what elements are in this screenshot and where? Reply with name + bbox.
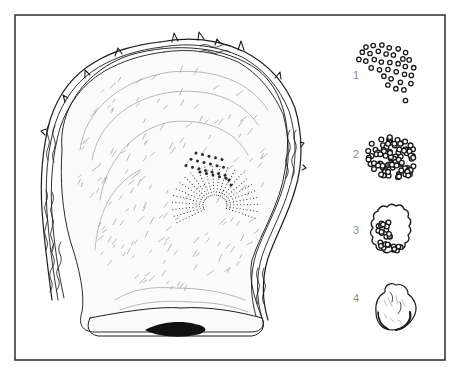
scar-dot xyxy=(196,209,197,210)
scar-dot xyxy=(253,198,254,199)
scar-dot xyxy=(207,189,208,190)
scar-dot xyxy=(237,204,238,205)
nucleus xyxy=(366,157,371,162)
scar-dot xyxy=(219,169,220,170)
scar-dot xyxy=(240,204,241,205)
scar-dot xyxy=(236,201,237,202)
scar-dot xyxy=(248,186,249,187)
nucleus xyxy=(381,222,386,227)
scar-dot xyxy=(190,211,191,212)
nucleus xyxy=(386,67,390,71)
scar-dot xyxy=(192,207,193,208)
scar-dot xyxy=(241,174,242,175)
scar-dot xyxy=(199,195,200,196)
nucleus xyxy=(378,152,383,157)
scar-dot xyxy=(175,208,176,209)
nucleus xyxy=(398,80,402,84)
scar-dot xyxy=(230,207,231,208)
nucleus xyxy=(406,173,411,178)
nucleus xyxy=(398,141,403,146)
scar-dot xyxy=(230,204,231,205)
nucleus xyxy=(394,87,398,91)
scar-dot xyxy=(256,211,257,212)
scar-dot xyxy=(220,189,221,190)
scar-dot xyxy=(204,200,205,201)
scar-dot xyxy=(221,186,222,187)
scar-dot xyxy=(222,197,223,198)
nucleus xyxy=(402,88,406,92)
scar-dot xyxy=(203,206,204,207)
scar-dot xyxy=(214,194,215,195)
scar-dot xyxy=(179,202,180,203)
nucleus xyxy=(369,66,373,70)
scar-dot xyxy=(218,195,219,196)
scar-dot xyxy=(235,211,236,212)
scar-nucleus xyxy=(205,172,208,175)
scar-dot xyxy=(223,180,224,181)
scar-nucleus xyxy=(218,175,221,178)
nucleus xyxy=(391,53,395,57)
scar-dot xyxy=(189,181,190,182)
scar-dot xyxy=(246,178,247,179)
nucleus xyxy=(403,64,407,68)
scar-dot xyxy=(204,195,205,196)
scar-dot xyxy=(203,181,204,182)
scar-dot xyxy=(229,200,230,201)
stage-2-nuclei xyxy=(366,135,416,180)
scar-dot xyxy=(212,195,213,196)
scar-dot xyxy=(172,209,173,210)
scar-dot xyxy=(188,188,189,189)
scar-dot xyxy=(217,182,218,183)
nucleus xyxy=(372,167,377,172)
scar-dot xyxy=(226,170,227,171)
nucleus xyxy=(401,57,405,61)
nucleus xyxy=(382,74,386,78)
stage-1: 1 xyxy=(353,43,416,103)
scar-dot xyxy=(174,216,175,217)
scar-dot xyxy=(226,203,227,204)
scar-dot xyxy=(198,212,199,213)
nucleus xyxy=(387,135,392,140)
scar-dot xyxy=(233,207,234,208)
nucleus xyxy=(394,70,398,74)
scar-dot xyxy=(225,187,226,188)
scar-dot xyxy=(185,192,186,193)
scar-nucleus xyxy=(209,163,212,166)
scar-dot xyxy=(250,198,251,199)
nucleus xyxy=(386,141,391,146)
nucleus xyxy=(399,168,404,173)
scar-dot xyxy=(186,218,187,219)
scar-dot xyxy=(243,204,244,205)
stage-3-mass xyxy=(371,204,411,253)
nucleus xyxy=(388,151,393,156)
scar-dot xyxy=(196,203,197,204)
scar-dot xyxy=(196,180,197,181)
scar-dot xyxy=(216,195,217,196)
scar-dot xyxy=(246,209,247,210)
stage-1-label: 1 xyxy=(353,69,359,81)
scar-dot xyxy=(199,191,200,192)
scar-dot xyxy=(222,183,223,184)
scar-dot xyxy=(232,173,233,174)
scar-dot xyxy=(196,200,197,201)
scar-dot xyxy=(182,202,183,203)
scar-dot xyxy=(201,193,202,194)
scar-dot xyxy=(244,181,245,182)
scar-dot xyxy=(187,179,188,180)
scar-dot xyxy=(190,199,191,200)
nucleus xyxy=(403,139,408,144)
nucleus xyxy=(396,47,400,51)
nucleus xyxy=(377,68,381,72)
scar-dot xyxy=(190,172,191,173)
stage-4: 4 xyxy=(353,284,416,330)
scar-dot xyxy=(236,192,237,193)
scar-dot xyxy=(189,216,190,217)
scar-dot xyxy=(191,190,192,191)
scar-dot xyxy=(179,190,180,191)
scar-dot xyxy=(231,191,232,192)
nucleus xyxy=(364,45,368,49)
scar-dot xyxy=(187,212,188,213)
scar-dot xyxy=(226,184,227,185)
scar-dot xyxy=(172,202,173,203)
nucleus xyxy=(360,50,364,54)
